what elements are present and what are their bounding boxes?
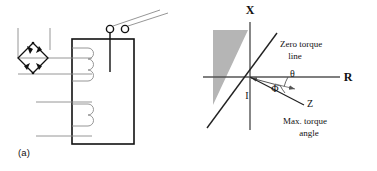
core-rectangle xyxy=(72,39,134,144)
upper-coil xyxy=(72,48,94,81)
z-vector-label: Z xyxy=(307,98,313,109)
terminal-circle-right xyxy=(121,25,128,32)
terminal-circle-left xyxy=(106,25,113,32)
zero-torque-label-line1: Zero torque xyxy=(280,39,322,49)
panel-a-schematic: (a) xyxy=(0,0,190,171)
panel-b-rx-diagram: X R Zero torque line I Z θ Φ Max. torque xyxy=(185,0,377,171)
i-vector-label: I xyxy=(245,90,248,101)
theta-arc xyxy=(284,77,288,87)
schematic-svg xyxy=(0,0,190,171)
terminals-group xyxy=(106,10,168,72)
max-torque-label-line2: angle xyxy=(299,128,319,138)
zero-torque-label-line2: line xyxy=(288,51,302,61)
max-torque-label-line1: Max. torque xyxy=(283,116,327,126)
diamond-node-bottom xyxy=(32,72,35,75)
contact-line-lower xyxy=(128,13,168,26)
figure-root: (a) X R Zero torque line I xyxy=(0,0,377,171)
r-axis-label: R xyxy=(344,70,353,84)
lower-coil xyxy=(72,104,94,126)
shaded-operating-region xyxy=(213,30,248,105)
panel-a-caption: (a) xyxy=(18,147,30,158)
rx-plane-svg: X R Zero torque line I Z θ Φ Max. torque xyxy=(185,0,377,171)
lower-wires xyxy=(36,102,92,136)
x-axis-label: X xyxy=(246,3,255,17)
theta-label: θ xyxy=(290,68,295,79)
diamond-node-top xyxy=(32,42,35,45)
phi-label: Φ xyxy=(271,83,278,94)
diode-top-left xyxy=(27,46,33,54)
